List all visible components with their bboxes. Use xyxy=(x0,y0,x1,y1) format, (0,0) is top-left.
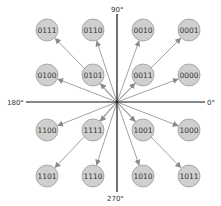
node-label: 1111 xyxy=(83,126,102,135)
node-1000: 1000 xyxy=(178,119,200,141)
node-label: 1110 xyxy=(83,172,102,181)
node-label: 0111 xyxy=(37,26,56,35)
node-label: 1101 xyxy=(37,172,56,181)
node-label: 0000 xyxy=(179,71,198,80)
node-label: 1100 xyxy=(37,126,56,135)
node-label: 1011 xyxy=(179,172,198,181)
vector-arrows xyxy=(55,39,180,168)
node-0001: 0001 xyxy=(178,19,200,41)
node-0010: 0010 xyxy=(132,19,154,41)
node-1001: 1001 xyxy=(132,119,154,141)
node-label: 0110 xyxy=(83,26,102,35)
node-label: 1010 xyxy=(133,172,152,181)
node-0101: 0101 xyxy=(82,64,104,86)
constellation-diagram: 90° 270° 180° 0° 01110110001000010100010… xyxy=(0,0,221,206)
node-0111: 0111 xyxy=(36,19,58,41)
node-0100: 0100 xyxy=(36,64,58,86)
node-label: 0010 xyxy=(133,26,152,35)
node-0110: 0110 xyxy=(82,19,104,41)
axis-label-0: 0° xyxy=(207,99,215,107)
node-label: 1000 xyxy=(179,126,198,135)
node-1111: 1111 xyxy=(82,119,104,141)
node-1100: 1100 xyxy=(36,119,58,141)
node-1110: 1110 xyxy=(82,165,104,187)
node-0011: 0011 xyxy=(132,64,154,86)
node-label: 1001 xyxy=(133,126,152,135)
node-label: 0100 xyxy=(37,71,56,80)
node-label: 0011 xyxy=(133,71,152,80)
node-label: 0001 xyxy=(179,26,198,35)
arrow-to-0011 xyxy=(117,84,135,102)
node-1101: 1101 xyxy=(36,165,58,187)
node-1011: 1011 xyxy=(178,165,200,187)
node-label: 0101 xyxy=(83,71,102,80)
axis-label-180: 180° xyxy=(7,99,24,107)
node-0000: 0000 xyxy=(178,64,200,86)
node-1010: 1010 xyxy=(132,165,154,187)
axis-label-90: 90° xyxy=(111,6,123,14)
axis-label-270: 270° xyxy=(107,195,124,203)
